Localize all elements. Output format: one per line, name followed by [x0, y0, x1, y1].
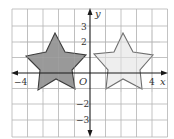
- dark-star: [26, 33, 86, 90]
- y-tick-label-neg3: −3: [76, 115, 90, 125]
- y-axis-label: y: [94, 8, 101, 19]
- y-tick-label-3: 3: [81, 22, 87, 32]
- light-star: [94, 33, 153, 89]
- x-axis-label: x: [160, 76, 166, 87]
- x-tick-label-4: 4: [149, 77, 155, 87]
- coordinate-plane: y x O −4 4 3 2 −2 −3: [0, 0, 174, 139]
- y-tick-label-neg2: −2: [76, 99, 89, 109]
- axes: [11, 8, 168, 137]
- x-axis-arrow-right-icon: [161, 71, 168, 76]
- x-tick-label-neg4: −4: [14, 77, 28, 87]
- y-tick-label-2: 2: [81, 37, 87, 47]
- origin-label: O: [79, 76, 87, 87]
- y-axis-arrow-down-icon: [88, 130, 93, 137]
